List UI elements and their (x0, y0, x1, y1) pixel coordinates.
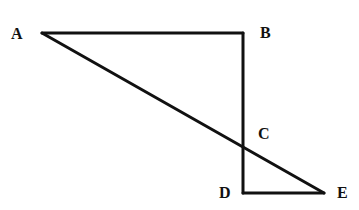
label-b: B (260, 24, 271, 41)
segment-ae (42, 33, 324, 193)
label-a: A (11, 25, 23, 42)
label-c: C (258, 125, 270, 142)
label-d: D (219, 184, 231, 201)
geometry-diagram: A B C D E (0, 0, 359, 210)
label-e: E (337, 184, 348, 201)
